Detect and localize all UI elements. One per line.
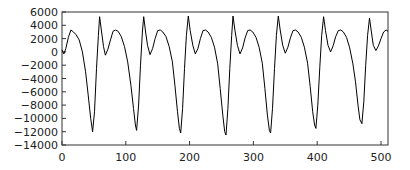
x-tick-label: 500 [371,151,392,164]
signal-line [62,16,388,135]
y-tick-label: 2000 [30,33,58,46]
y-tick-label: −8000 [21,99,58,112]
x-tick-label: 200 [179,151,200,164]
y-tick-label: −10000 [14,112,58,125]
y-tick-label: −14000 [14,139,58,152]
y-axis: 6000400020000−2000−4000−6000−8000−10000−… [14,6,66,152]
x-tick-label: 400 [307,151,328,164]
x-tick-label: 100 [115,151,136,164]
x-axis: 0100200300400500 [59,141,392,164]
y-tick-label: −4000 [21,73,58,86]
y-tick-label: 4000 [30,19,58,32]
y-tick-label: −6000 [21,86,58,99]
x-tick-label: 300 [243,151,264,164]
x-tick-label: 0 [59,151,66,164]
y-tick-label: 0 [51,46,58,59]
y-tick-label: −2000 [21,59,58,72]
y-tick-label: −12000 [14,126,58,139]
y-tick-label: 6000 [30,6,58,19]
plot-area-frame [62,12,388,145]
line-chart: 6000400020000−2000−4000−6000−8000−10000−… [0,0,410,170]
